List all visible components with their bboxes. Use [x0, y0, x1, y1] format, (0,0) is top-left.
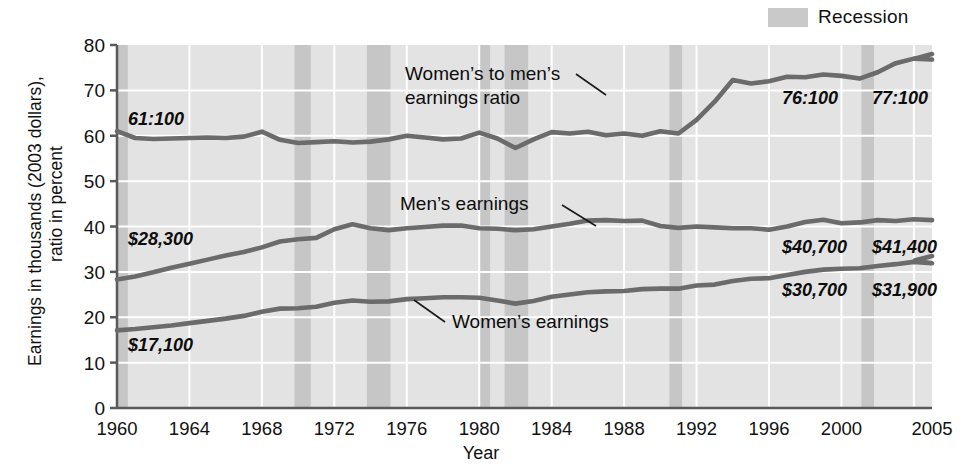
x-tick-label: 2000: [821, 418, 862, 439]
x-tick-label: 1984: [531, 418, 572, 439]
y-tick-label: 20: [84, 307, 105, 328]
y-tick-label: 10: [84, 353, 105, 374]
x-tick-label: 1960: [96, 418, 137, 439]
x-tick-label: 1972: [314, 418, 355, 439]
annotation-men-2000: $40,700: [781, 237, 847, 257]
annotation-ratio-2005: 77:100: [872, 88, 928, 108]
chart-figure: Recession Earnings in thousands (2003 do…: [0, 0, 962, 469]
y-tick-label: 50: [84, 171, 105, 192]
series-label-men: Men’s earnings: [400, 193, 529, 214]
series-label-ratio-line1: Women’s to men’s: [405, 63, 560, 84]
plot-canvas: 0102030405060708019601964196819721976198…: [0, 0, 962, 469]
x-tick-label: 1976: [386, 418, 427, 439]
x-tick-label: 1980: [459, 418, 500, 439]
annotation-women-start: $17,100: [127, 335, 193, 355]
annotation-men-2005: $41,400: [871, 237, 937, 257]
x-tick-label: 1964: [169, 418, 210, 439]
y-tick-label: 30: [84, 262, 105, 283]
x-tick-label: 1988: [604, 418, 645, 439]
y-tick-label: 0: [94, 398, 105, 419]
y-tick-label: 40: [84, 217, 105, 238]
annotation-men-start: $28,300: [127, 229, 193, 249]
x-tick-label: 1992: [676, 418, 717, 439]
y-tick-label: 80: [84, 35, 105, 56]
annotation-ratio-2000: 76:100: [782, 88, 838, 108]
x-tick-label: 1968: [241, 418, 282, 439]
annotation-women-2000: $30,700: [781, 280, 847, 300]
series-label-ratio-line2: earnings ratio: [405, 87, 520, 108]
annotation-women-2005: $31,900: [871, 280, 937, 300]
annotation-ratio-start: 61:100: [128, 109, 184, 129]
y-tick-label: 70: [84, 80, 105, 101]
series-label-women: Women’s earnings: [452, 311, 609, 332]
x-tick-label: 1996: [748, 418, 789, 439]
y-tick-label: 60: [84, 126, 105, 147]
x-tick-label: 2005: [911, 418, 952, 439]
